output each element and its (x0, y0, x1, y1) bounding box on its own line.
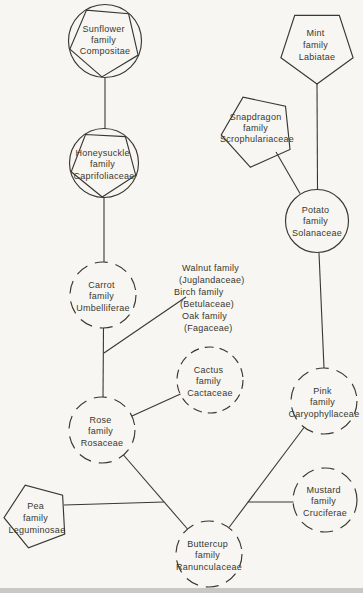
node-mint: Mint family Labiatae (281, 15, 353, 84)
pink-label: Pink family Caryophyllaceae (289, 386, 360, 419)
diagram-canvas: Sunflower family Compositae Mint family … (0, 0, 363, 593)
node-pink: Pink family Caryophyllaceae (289, 368, 360, 434)
node-snapdragon: Snapdragon family Scrophulariaceae (220, 97, 294, 167)
node-potato: Potato family Solanaceae (286, 190, 349, 253)
edge-pea-link (64, 502, 164, 505)
pea-label: Pea family Leguminosae (9, 501, 66, 535)
rose-label: Rose family Rosaceae (81, 415, 124, 448)
snapdragon-label: Snapdragon family Scrophulariaceae (220, 112, 294, 144)
sunflower-label: Sunflower family Compositae (80, 24, 131, 56)
node-buttercup: Buttercup family Ranunculaceae (176, 521, 242, 587)
node-sunflower: Sunflower family Compositae (69, 5, 142, 78)
node-mustard: Mustard family Cruciferae (293, 468, 357, 532)
honeysuckle-label: Honeysuckle family Caprifoliaceae (73, 148, 134, 181)
edge-rose-cactus (132, 394, 181, 416)
cactus-label: Cactus family Cactaceae (187, 365, 232, 398)
mint-label: Mint family Labiatae (299, 28, 336, 62)
edge-snapdragon-potato (276, 152, 300, 194)
potato-label: Potato family Solanaceae (292, 205, 342, 238)
mustard-label: Mustard family Cruciferae (303, 485, 347, 518)
node-carrot: Carrot family Umbelliferae (70, 262, 136, 328)
diagram-page: Sunflower family Compositae Mint family … (0, 0, 363, 593)
edge-mint-potato (317, 84, 318, 190)
edge-carrot-rose (103, 328, 104, 397)
carrot-label: Carrot family Umbelliferae (76, 280, 130, 313)
edge-rose-buttercup (124, 455, 188, 529)
edge-pink-buttercup (229, 428, 304, 528)
edge-potato-pink (319, 253, 324, 368)
node-pea: Pea family Leguminosae (4, 485, 65, 548)
page-bottom-edge (0, 588, 363, 593)
node-rose: Rose family Rosaceae (69, 397, 135, 463)
buttercup-label: Buttercup family Ranunculaceae (176, 539, 242, 572)
node-cactus: Cactus family Cactaceae (177, 347, 243, 413)
node-honeysuckle: Honeysuckle family Caprifoliaceae (70, 129, 139, 198)
